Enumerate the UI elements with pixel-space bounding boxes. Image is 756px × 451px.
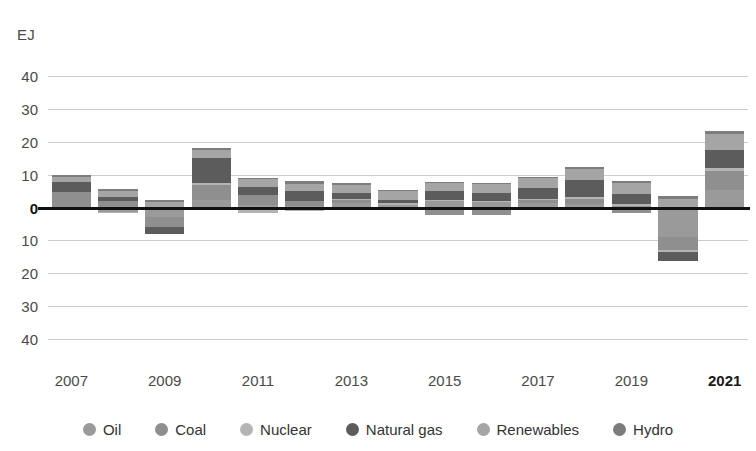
bar-segment-natural-gas-2018: [565, 180, 604, 197]
bar-segment-renewables-2010: [192, 150, 231, 157]
bar-segment-natural-gas-2015: [425, 191, 464, 200]
bar-segment-coal-2017: [518, 200, 557, 203]
bar-segment-renewables-2014: [378, 191, 417, 200]
y-axis-tick-10: 10: [4, 166, 38, 183]
bar-segment-natural-gas-2007: [52, 182, 91, 193]
bar-segment-coal-2010: [192, 185, 231, 201]
y-axis-tick-labels: 40302010010203040: [0, 60, 38, 355]
bar-segment-hydro-2020: [658, 196, 697, 199]
hydro-swatch-icon: [613, 423, 626, 436]
bar-segment-natural-gas-2014: [378, 200, 417, 203]
bar-segment-hydro-2021: [705, 131, 744, 134]
bar-segment-hydro-2018: [565, 167, 604, 169]
bar-segment-renewables-2016: [472, 184, 511, 193]
legend-label: Oil: [103, 421, 121, 438]
x-axis-tick-2021: 2021: [708, 372, 741, 389]
bar-segment-coal-2009: [145, 217, 184, 227]
bar-segment-natural-gas-2019: [612, 194, 651, 204]
y-axis-tick-10: 10: [4, 232, 38, 249]
y-axis-tick-30: 30: [4, 297, 38, 314]
legend-label: Coal: [175, 421, 206, 438]
bar-segment-renewables-2018: [565, 169, 604, 180]
bar-segment-renewables-2008: [98, 191, 137, 197]
bar-segment-oil-2021: [705, 190, 744, 207]
bar-segment-renewables-2015: [425, 183, 464, 191]
bar-segment-nuclear-2017: [518, 199, 557, 200]
natural-gas-swatch-icon: [346, 423, 359, 436]
bar-segment-renewables-2017: [518, 178, 557, 188]
chart-legend: OilCoalNuclearNatural gasRenewablesHydro: [0, 412, 756, 446]
bar-segment-hydro-2013: [332, 183, 371, 185]
legend-item-coal[interactable]: Coal: [155, 421, 206, 438]
bar-segment-coal-2012: [285, 201, 324, 206]
bar-segment-natural-gas-2016: [472, 193, 511, 201]
x-axis-tick-2011: 2011: [242, 372, 274, 389]
bar-segment-natural-gas-2021: [705, 150, 744, 167]
bar-segment-nuclear-2013: [332, 199, 371, 200]
plot-area: [48, 60, 748, 355]
oil-swatch-icon: [83, 423, 96, 436]
legend-item-natural-gas[interactable]: Natural gas: [346, 421, 443, 438]
bar-segment-coal-2013: [332, 200, 371, 203]
x-axis-tick-2007: 2007: [55, 372, 88, 389]
bar-segment-renewables-2012: [285, 184, 324, 191]
x-axis-tick-labels: 20072009201120132015201720192021: [48, 372, 748, 394]
bar-segment-natural-gas-2017: [518, 188, 557, 199]
x-axis-tick-2019: 2019: [615, 372, 648, 389]
legend-label: Natural gas: [366, 421, 443, 438]
bar-segment-hydro-2016: [472, 183, 511, 185]
legend-label: Nuclear: [260, 421, 312, 438]
bar-segment-coal-2007: [52, 192, 91, 207]
y-axis-unit-label: EJ: [17, 26, 35, 43]
bar-segment-hydro-2015: [425, 182, 464, 183]
bar-segment-oil-2020: [658, 208, 697, 238]
bar-segment-renewables-2019: [612, 183, 651, 194]
bar-segment-renewables-2013: [332, 185, 371, 194]
bar-segment-hydro-2014: [378, 190, 417, 191]
x-axis-tick-2015: 2015: [428, 372, 461, 389]
legend-item-nuclear[interactable]: Nuclear: [240, 421, 312, 438]
bar-segment-natural-gas-2012: [285, 191, 324, 200]
renewables-swatch-icon: [477, 423, 490, 436]
bar-segment-nuclear-2021: [705, 168, 744, 171]
bar-segment-nuclear-2015: [425, 200, 464, 201]
y-axis-tick-20: 20: [4, 265, 38, 282]
bar-segment-renewables-2007: [52, 177, 91, 182]
y-axis-tick-0: 0: [4, 199, 38, 216]
x-axis-tick-2017: 2017: [521, 372, 554, 389]
bar-segment-nuclear-2018: [565, 197, 604, 199]
x-axis-tick-2009: 2009: [148, 372, 181, 389]
nuclear-swatch-icon: [240, 423, 253, 436]
coal-swatch-icon: [155, 423, 168, 436]
bar-segment-nuclear-2014: [378, 203, 417, 205]
bar-segment-nuclear-2010: [192, 183, 231, 185]
bar-segment-hydro-2017: [518, 177, 557, 178]
bar-segment-natural-gas-2008: [98, 197, 137, 201]
bar-segment-hydro-2011: [238, 178, 277, 179]
energy-change-chart: EJ 40302010010203040 2007200920112013201…: [0, 0, 756, 451]
legend-label: Renewables: [497, 421, 580, 438]
bar-segment-natural-gas-2009: [145, 227, 184, 233]
y-axis-tick-20: 20: [4, 133, 38, 150]
legend-item-oil[interactable]: Oil: [83, 421, 121, 438]
legend-item-renewables[interactable]: Renewables: [477, 421, 580, 438]
bar-segment-hydro-2007: [52, 175, 91, 177]
bar-segment-nuclear-2016: [472, 201, 511, 202]
bar-segment-coal-2020: [658, 237, 697, 250]
bar-segment-coal-2011: [238, 195, 277, 205]
legend-item-hydro[interactable]: Hydro: [613, 421, 673, 438]
bar-segment-natural-gas-2010: [192, 158, 231, 183]
bar-segment-coal-2018: [565, 199, 604, 204]
bar-segment-hydro-2019: [612, 181, 651, 183]
bar-segment-natural-gas-2011: [238, 187, 277, 196]
bar-segment-renewables-2021: [705, 134, 744, 151]
bar-segment-nuclear-2019: [612, 204, 651, 206]
bar-segment-renewables-2011: [238, 179, 277, 187]
x-axis-tick-2013: 2013: [335, 372, 368, 389]
zero-axis-line: [38, 207, 750, 210]
bar-segment-hydro-2010: [192, 148, 231, 151]
y-axis-tick-40: 40: [4, 330, 38, 347]
legend-label: Hydro: [633, 421, 673, 438]
bar-segment-hydro-2009: [145, 200, 184, 202]
bar-segment-natural-gas-2013: [332, 193, 371, 199]
